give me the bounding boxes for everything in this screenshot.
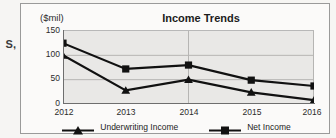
data-point-square	[122, 65, 129, 72]
page-background: S, ($mil) Income Trends 150 100 50	[0, 0, 336, 138]
legend-entry-net-income: Net Income	[208, 122, 290, 133]
y-tick-150: 150	[46, 26, 60, 35]
legend-label-net-income: Net Income	[247, 122, 290, 132]
y-tick-100: 100	[46, 50, 60, 59]
legend-label-underwriting-income: Underwriting Income	[100, 122, 178, 132]
chart-plot-svg	[63, 31, 314, 104]
legend-entry-underwriting-income: Underwriting Income	[61, 122, 178, 133]
triangle-marker-icon	[61, 122, 95, 133]
x-tick-2014: 2014	[169, 107, 209, 117]
y-tick-50: 50	[51, 74, 60, 83]
x-axis-line	[63, 103, 315, 104]
x-tick-2012: 2012	[44, 107, 84, 117]
data-point-square	[248, 77, 255, 84]
x-tick-2015: 2015	[232, 107, 272, 117]
chart-container: ($mil) Income Trends 150 100 50 0	[20, 3, 330, 134]
x-tick-2016: 2016	[292, 107, 332, 117]
data-point-square	[185, 61, 192, 68]
plot-area	[63, 30, 314, 103]
chart-legend: Underwriting Income Net Income	[21, 120, 331, 134]
chart-title: Income Trends	[111, 12, 291, 24]
margin-text-fragment: S,	[0, 38, 16, 50]
y-axis-line	[63, 30, 64, 104]
square-marker-icon	[208, 122, 242, 133]
x-tick-2013: 2013	[106, 107, 146, 117]
data-point-square	[310, 82, 314, 89]
